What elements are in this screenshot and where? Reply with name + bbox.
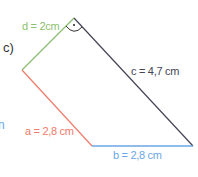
label-c: c = 4,7 cm	[131, 66, 179, 77]
label-d: d = 2cm	[22, 21, 59, 32]
side-c	[74, 18, 193, 146]
right-angle-dot	[73, 24, 75, 26]
label-b: b = 2,8 cm	[113, 150, 162, 161]
right-angle-arc	[66, 26, 82, 31]
label-a: a = 2,8 cm	[25, 126, 74, 137]
